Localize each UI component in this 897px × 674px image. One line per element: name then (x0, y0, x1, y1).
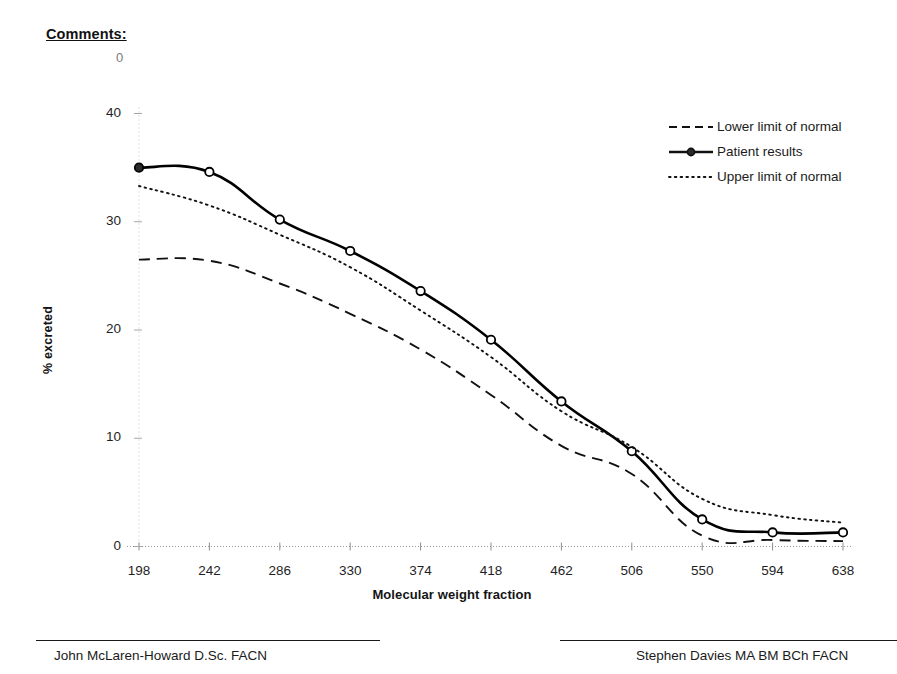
signatory-name-left: John McLaren-Howard D.Sc. FACN (54, 648, 267, 663)
x-axis-tick-506: 506 (605, 563, 659, 578)
legend-item-label: Upper limit of normal (714, 169, 842, 184)
x-axis-tick-198: 198 (112, 563, 166, 578)
x-axis-tick-286: 286 (253, 563, 307, 578)
legend-swatch-icon (668, 170, 714, 184)
x-axis-tick-418: 418 (464, 563, 518, 578)
series-lower-limit-of-normal (139, 258, 843, 543)
y-axis-tick-20: 20 (81, 321, 121, 336)
signature-rule-right (560, 640, 897, 641)
x-axis-tick-638: 638 (816, 563, 870, 578)
chart-plot (0, 0, 897, 620)
x-axis-tick-374: 374 (394, 563, 448, 578)
series-layer (135, 163, 847, 543)
x-axis-tick-594: 594 (746, 563, 800, 578)
legend-swatch-icon (668, 145, 714, 159)
signature-rule-left (36, 640, 380, 641)
legend-swatch-icon (668, 120, 714, 134)
chart-area: % excreted Molecular weight fraction 010… (0, 0, 897, 620)
y-axis-title: % excreted (41, 270, 55, 410)
x-axis-tick-330: 330 (323, 563, 377, 578)
y-axis-tick-40: 40 (81, 105, 121, 120)
y-axis-tick-30: 30 (81, 213, 121, 228)
y-axis-tick-0: 0 (81, 538, 121, 553)
legend-item-0[interactable]: Lower limit of normal (668, 114, 893, 139)
y-axis-tick-10: 10 (81, 429, 121, 444)
legend-item-1[interactable]: Patient results (668, 139, 893, 164)
chart-legend: Lower limit of normalPatient resultsUppe… (668, 114, 893, 189)
x-axis-tick-242: 242 (182, 563, 236, 578)
x-axis-tick-550: 550 (675, 563, 729, 578)
series-upper-limit-of-normal (139, 186, 843, 523)
signature-footer: John McLaren-Howard D.Sc. FACN Stephen D… (0, 618, 897, 674)
series-patient-results (135, 163, 847, 536)
signatory-name-right: Stephen Davies MA BM BCh FACN (636, 648, 848, 663)
x-axis-title: Molecular weight fraction (292, 587, 612, 602)
legend-item-label: Lower limit of normal (714, 119, 842, 134)
legend-item-label: Patient results (714, 144, 803, 159)
legend-item-2[interactable]: Upper limit of normal (668, 164, 893, 189)
x-axis-tick-462: 462 (534, 563, 588, 578)
